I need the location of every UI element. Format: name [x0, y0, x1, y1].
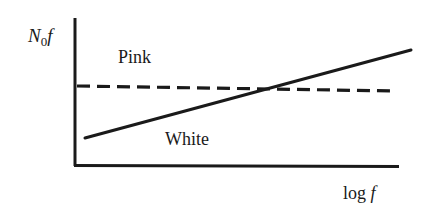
x-axis-label: log f — [343, 184, 376, 202]
y-axis-label-subscript: 0 — [41, 34, 48, 49]
white-label: White — [165, 130, 209, 148]
y-axis-label-suffix: f — [47, 25, 52, 46]
y-axis-label: N0f — [28, 26, 52, 45]
x-axis-label-main: log — [343, 183, 371, 203]
y-axis-label-main: N — [28, 25, 41, 46]
x-axis-label-italic: f — [371, 183, 376, 203]
pink-noise-line — [77, 86, 396, 91]
pink-label: Pink — [118, 48, 151, 66]
chart: N0f Pink White log f — [0, 0, 426, 212]
x-axis — [74, 166, 399, 167]
chart-plot — [0, 0, 426, 212]
